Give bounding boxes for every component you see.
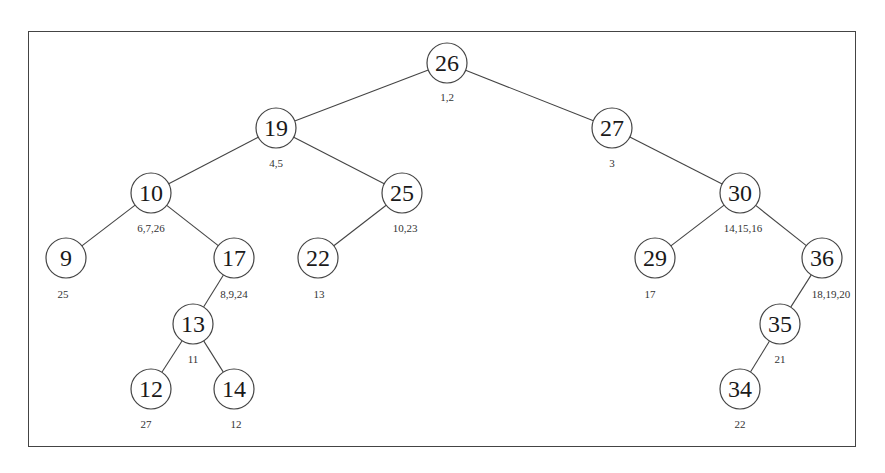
tree-diagram: 261,2194,5273106,7,262510,233014,15,1692… [0,0,885,473]
tree-edge-19-25 [294,137,384,184]
node-key: 25 [390,180,414,206]
tree-edge-10-9 [82,205,135,246]
tree-edge-10-17 [167,205,219,245]
node-annotation: 18,19,20 [812,288,851,300]
node-annotation: 22 [735,418,746,430]
tree-edge-25-22 [334,205,386,246]
node-key: 30 [728,180,752,206]
node-key: 29 [643,245,667,271]
node-annotation: 12 [231,418,242,430]
node-annotation: 1,2 [440,91,454,103]
tree-node-25: 2510,23 [382,173,422,234]
tree-edge-27-30 [630,137,722,184]
tree-node-12: 1227 [131,369,171,430]
tree-edge-19-10 [169,137,259,184]
node-key: 22 [306,245,330,271]
node-annotation: 8,9,24 [220,288,248,300]
node-annotation: 14,15,16 [724,222,763,234]
tree-node-34: 3422 [720,369,760,430]
node-annotation: 11 [188,353,199,365]
tree-node-27: 273 [592,108,632,169]
tree-node-14: 1412 [214,369,254,430]
node-annotation: 21 [775,353,786,365]
tree-node-29: 2917 [635,238,675,300]
node-key: 9 [60,245,72,271]
tree-edge-13-12 [162,341,182,372]
node-key: 36 [810,245,834,271]
tree-nodes: 261,2194,5273106,7,262510,233014,15,1692… [46,43,851,430]
node-key: 26 [435,50,459,76]
node-annotation: 17 [645,288,657,300]
node-key: 10 [139,180,163,206]
tree-node-13: 1311 [173,304,213,365]
node-key: 14 [222,376,246,402]
tree-edge-35-34 [750,341,769,372]
tree-node-17: 178,9,24 [214,238,254,300]
tree-node-9: 925 [46,238,86,300]
node-annotation: 10,23 [393,222,418,234]
tree-node-22: 2213 [298,238,338,300]
node-annotation: 13 [314,288,326,300]
node-annotation: 4,5 [269,157,283,169]
tree-node-36: 3618,19,20 [802,238,851,300]
node-annotation: 27 [141,418,153,430]
node-key: 13 [181,311,205,337]
tree-node-26: 261,2 [427,43,467,103]
tree-edge-30-36 [756,205,807,245]
node-annotation: 6,7,26 [137,222,165,234]
tree-edge-26-19 [295,70,429,121]
tree-edge-36-35 [791,275,812,307]
tree-edge-30-29 [671,205,724,246]
node-annotation: 25 [58,288,70,300]
tree-edge-26-27 [466,70,594,120]
node-key: 12 [139,376,163,402]
node-annotation: 3 [609,157,615,169]
tree-node-19: 194,5 [256,108,296,169]
node-key: 34 [728,376,752,402]
node-key: 19 [264,115,288,141]
tree-node-30: 3014,15,16 [720,173,763,234]
node-key: 35 [768,311,792,337]
node-key: 27 [600,115,624,141]
tree-node-10: 106,7,26 [131,173,171,234]
tree-node-35: 3521 [760,304,800,365]
node-key: 17 [222,245,246,271]
tree-edge-13-14 [204,341,224,372]
